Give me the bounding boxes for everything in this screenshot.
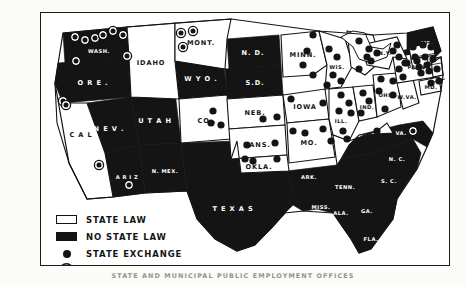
muni-marker — [122, 51, 131, 60]
label-wva: W.VA. — [397, 94, 417, 100]
state-dot — [363, 53, 370, 60]
state-dot — [325, 45, 332, 52]
state-dot — [355, 65, 362, 72]
state-dot — [259, 115, 266, 122]
state-dot — [365, 45, 372, 52]
legend-item-state-law: STATE LAW — [56, 212, 206, 227]
state-dot — [429, 55, 436, 62]
legend-label-state-law: STATE LAW — [86, 215, 147, 225]
employment-offices-map-figure: .nolaw{ fill:#141414; stroke:#141414; st… — [0, 0, 466, 285]
state-dot — [243, 141, 250, 148]
label-ky: KY. — [358, 142, 368, 148]
state-dot — [373, 49, 380, 56]
label-nc: N. C. — [389, 156, 405, 162]
label-ore: O R E . — [78, 79, 109, 87]
state-dot — [335, 107, 342, 114]
state-dot — [395, 65, 402, 72]
state-dot — [399, 73, 406, 80]
state-dot — [393, 41, 400, 48]
label-ark: ARK. — [301, 174, 317, 180]
label-idaho: IDAHO — [137, 59, 166, 67]
state-dot — [319, 125, 326, 132]
state-dot — [303, 47, 310, 54]
state-dot — [271, 139, 278, 146]
label-mo: MO. — [300, 139, 317, 147]
state-dot — [273, 155, 280, 162]
state-dot — [323, 81, 330, 88]
label-okla: OKLA. — [245, 163, 272, 171]
state-dot — [337, 77, 344, 84]
label-nd: N. D. — [242, 49, 265, 57]
label-utah: U T A H — [138, 117, 172, 125]
muni-marker — [108, 26, 117, 35]
filled-dot-icon — [63, 250, 71, 258]
state-dot — [301, 129, 308, 136]
muni-marker — [408, 126, 417, 135]
state-dot — [389, 47, 396, 54]
state-dot — [273, 113, 280, 120]
map-plate: .nolaw{ fill:#141414; stroke:#141414; st… — [40, 12, 450, 266]
label-mont: MONT. — [187, 39, 215, 47]
label-texas: T E X A S — [212, 205, 253, 213]
state-dot — [377, 75, 384, 82]
state-dot — [309, 31, 316, 38]
muni-marker — [94, 160, 103, 169]
state-dot — [289, 127, 296, 134]
muni-marker — [70, 32, 79, 41]
label-ind: IND. — [360, 104, 375, 110]
black-rectangle-swatch-icon — [56, 232, 77, 241]
state-dot — [287, 95, 294, 102]
state-dot — [401, 59, 408, 66]
label-ill: ILL. — [335, 118, 348, 124]
label-va: VA. — [395, 130, 406, 136]
muni-marker — [80, 35, 89, 44]
muni-marker — [71, 56, 80, 65]
state-dot — [337, 91, 344, 98]
label-wis: WIS. — [329, 64, 344, 70]
label-miss: MISS. — [312, 204, 331, 210]
state-dot — [327, 137, 334, 144]
label-tenn: TENN. — [335, 184, 355, 190]
label-fla: FLA. — [364, 236, 379, 242]
label-ala: ALA. — [333, 210, 348, 216]
legend-label-municipal-exchange: MUNICIPAL EXCHANGE — [86, 266, 210, 267]
muni-marker — [118, 30, 127, 39]
muni-marker — [176, 28, 185, 37]
legend-label-state-exchange: STATE EXCHANGE — [86, 249, 182, 259]
state-dot — [433, 65, 440, 72]
muni-marker — [178, 42, 187, 51]
muni-marker — [124, 180, 133, 189]
muni-marker — [61, 100, 70, 109]
state-dot — [347, 109, 354, 116]
map-legend: STATE LAW NO STATE LAW STATE EXCHANGE MU… — [56, 212, 206, 266]
state-dot — [309, 71, 316, 78]
state-dot — [355, 37, 362, 44]
state-dot — [373, 127, 380, 134]
state-dot — [365, 97, 372, 104]
label-wyo: W Y O . — [184, 75, 217, 83]
state-dot — [381, 105, 388, 112]
muni-marker — [98, 30, 107, 39]
state-dot — [329, 71, 336, 78]
state-dot — [357, 109, 364, 116]
state-dot — [319, 99, 326, 106]
state-dot — [345, 99, 352, 106]
state-dot — [339, 127, 346, 134]
muni-marker — [188, 26, 197, 35]
state-dot — [395, 53, 402, 60]
label-nev: N E V . — [94, 125, 125, 133]
label-minn: MINN. — [289, 51, 316, 59]
filled-dot-swatch-wrap — [56, 250, 77, 258]
state-dot — [427, 43, 434, 50]
state-dot — [389, 91, 396, 98]
legend-item-municipal-exchange: MUNICIPAL EXCHANGE — [56, 263, 206, 266]
legend-label-no-state-law: NO STATE LAW — [86, 232, 167, 242]
label-la: LA. — [294, 212, 305, 218]
figure-caption: STATE AND MUNICIPAL PUBLIC EMPLOYMENT OF… — [0, 272, 466, 280]
label-ariz: A R I Z — [116, 174, 139, 180]
state-dot — [249, 157, 256, 164]
state-dot — [343, 135, 350, 142]
state-dot — [299, 61, 306, 68]
label-sd: S.D. — [246, 79, 265, 87]
state-dot — [375, 87, 382, 94]
